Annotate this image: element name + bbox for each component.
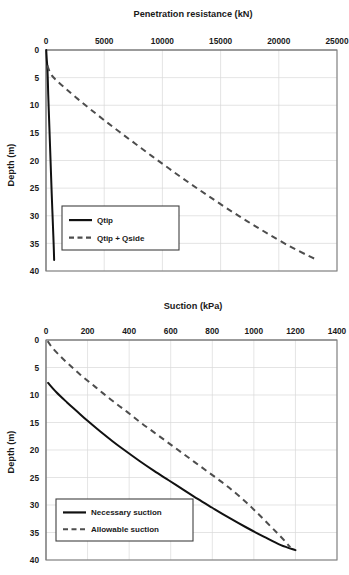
suction-plot: Suction (kPa) 02004006008001000120014000… <box>0 292 349 575</box>
y-tick-label: 25 <box>30 473 40 483</box>
y-tick-label: 35 <box>30 528 40 538</box>
x-tick-label: 10000 <box>151 36 174 46</box>
legend-label: Qtip <box>97 216 113 225</box>
bottom-chart-x-axis-title: Suction (kPa) <box>164 301 223 311</box>
x-tick-label: 5000 <box>95 36 114 46</box>
x-tick-label: 1000 <box>245 326 264 336</box>
y-tick-label: 30 <box>30 500 40 510</box>
y-tick-label: 0 <box>34 45 39 55</box>
x-tick-label: 20000 <box>267 36 290 46</box>
x-tick-label: 1200 <box>286 326 305 336</box>
top-chart-legend: QtipQtip + Qside <box>62 206 179 250</box>
legend-label: Allowable suction <box>91 525 159 534</box>
penetration-resistance-plot: Penetration resistance (kN) 050001000015… <box>0 0 349 292</box>
y-tick-label: 20 <box>30 445 40 455</box>
y-tick-label: 40 <box>30 266 40 276</box>
y-tick-label: 25 <box>30 183 40 193</box>
y-tick-label: 10 <box>30 390 40 400</box>
x-tick-label: 600 <box>164 326 178 336</box>
suction-chart: Suction (kPa) 02004006008001000120014000… <box>0 292 349 575</box>
penetration-resistance-chart: Penetration resistance (kN) 050001000015… <box>0 0 349 292</box>
y-tick-label: 40 <box>30 555 40 565</box>
y-tick-label: 5 <box>34 363 39 373</box>
x-tick-label: 0 <box>44 326 49 336</box>
legend-label: Necessary suction <box>91 508 162 517</box>
x-tick-label: 1400 <box>328 326 347 336</box>
y-tick-label: 20 <box>30 156 40 166</box>
series-line <box>46 50 54 260</box>
x-tick-label: 400 <box>122 326 136 336</box>
x-tick-label: 200 <box>81 326 95 336</box>
y-tick-label: 35 <box>30 239 40 249</box>
top-chart-y-axis-title: Depth (m) <box>6 144 16 187</box>
y-tick-label: 0 <box>34 335 39 345</box>
legend-label: Qtip + Qside <box>97 234 145 243</box>
y-tick-label: 30 <box>30 211 40 221</box>
bottom-chart-y-axis-title: Depth (m) <box>6 431 16 474</box>
bottom-chart-legend: Necessary suctionAllowable suction <box>56 499 193 541</box>
y-tick-label: 15 <box>30 418 40 428</box>
x-tick-label: 15000 <box>209 36 232 46</box>
y-tick-label: 5 <box>34 73 39 83</box>
top-chart-x-axis-title: Penetration resistance (kN) <box>134 9 253 19</box>
x-tick-label: 800 <box>205 326 219 336</box>
x-tick-label: 0 <box>44 36 49 46</box>
x-tick-label: 25000 <box>325 36 348 46</box>
y-tick-label: 15 <box>30 128 40 138</box>
y-tick-label: 10 <box>30 100 40 110</box>
